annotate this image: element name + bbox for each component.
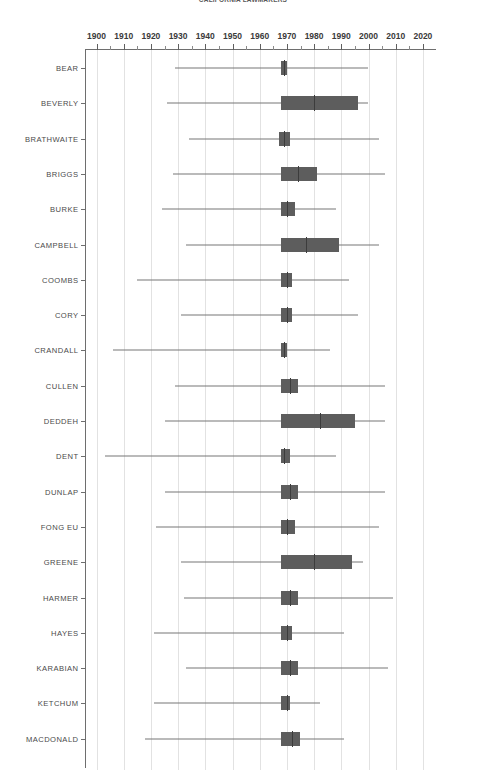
median-line: [284, 342, 285, 358]
median-line: [290, 660, 291, 676]
x-tick-1920: [151, 44, 152, 50]
y-tick-hayes: [81, 633, 85, 634]
y-tick-cullen: [81, 386, 85, 387]
category-label-burke: BURKE: [50, 205, 78, 214]
category-label-harmer: HARMER: [43, 593, 79, 602]
x-tick-1960: [260, 44, 261, 50]
x-tick-1995: [355, 46, 356, 50]
box-iqr[interactable]: [281, 520, 295, 534]
median-line: [314, 554, 315, 570]
y-tick-macdonald: [81, 739, 85, 740]
x-tick-1975: [301, 46, 302, 50]
x-tick-2020: [423, 44, 424, 50]
boxplot-row[interactable]: DUNLAP: [0, 480, 486, 504]
median-line: [284, 448, 285, 464]
category-label-brathwaite: BRATHWAITE: [25, 134, 78, 143]
boxplot-row[interactable]: CAMPBELL: [0, 233, 486, 257]
boxplot-row[interactable]: GREENE: [0, 550, 486, 574]
whisker-line: [137, 279, 349, 280]
x-tick-1910: [124, 44, 125, 50]
category-label-fong-eu: FONG EU: [41, 522, 79, 531]
whisker-line: [165, 491, 385, 492]
category-label-karabian: KARABIAN: [36, 664, 78, 673]
box-iqr[interactable]: [281, 555, 352, 569]
category-label-beverly: BEVERLY: [41, 99, 79, 108]
y-tick-deddeh: [81, 421, 85, 422]
x-tick-2010: [396, 44, 397, 50]
x-tick-1965: [273, 46, 274, 50]
x-tick-1980: [314, 44, 315, 50]
x-tick-1925: [165, 46, 166, 50]
boxplot-row[interactable]: BRATHWAITE: [0, 127, 486, 151]
boxplot-row[interactable]: DENT: [0, 444, 486, 468]
category-label-coombs: COOMBS: [42, 275, 78, 284]
boxplot-row[interactable]: CRANDALL: [0, 338, 486, 362]
boxplot-row[interactable]: HAYES: [0, 621, 486, 645]
y-tick-dent: [81, 456, 85, 457]
box-iqr[interactable]: [281, 202, 295, 216]
median-line: [287, 695, 288, 711]
boxplot-row[interactable]: DEDDEH: [0, 409, 486, 433]
category-label-greene: GREENE: [44, 558, 79, 567]
boxplot-row[interactable]: BURKE: [0, 197, 486, 221]
y-tick-beverly: [81, 103, 85, 104]
plot-area: BEARBEVERLYBRATHWAITEBRIGGSBURKECAMPBELL…: [0, 0, 486, 774]
boxplot-row[interactable]: COOMBS: [0, 268, 486, 292]
median-line: [290, 484, 291, 500]
whisker-line: [156, 526, 379, 527]
category-label-cullen: CULLEN: [46, 381, 79, 390]
whisker-line: [175, 68, 368, 69]
x-tick-1955: [246, 46, 247, 50]
whisker-line: [154, 703, 320, 704]
boxplot-row[interactable]: MACDONALD: [0, 727, 486, 751]
box-iqr[interactable]: [281, 414, 354, 428]
x-tick-1990: [341, 44, 342, 50]
x-tick-2005: [382, 46, 383, 50]
x-tick-2015: [409, 46, 410, 50]
median-line: [298, 166, 299, 182]
boxplot-row[interactable]: BRIGGS: [0, 162, 486, 186]
category-label-cory: CORY: [55, 311, 79, 320]
boxplot-row[interactable]: FONG EU: [0, 515, 486, 539]
boxplot-row[interactable]: BEAR: [0, 56, 486, 80]
y-tick-burke: [81, 209, 85, 210]
y-tick-fong-eu: [81, 527, 85, 528]
x-tick-1915: [137, 46, 138, 50]
y-tick-karabian: [81, 668, 85, 669]
category-label-campbell: CAMPBELL: [34, 240, 78, 249]
y-tick-coombs: [81, 280, 85, 281]
y-tick-ketchum: [81, 703, 85, 704]
boxplot-row[interactable]: CULLEN: [0, 374, 486, 398]
whisker-line: [175, 385, 384, 386]
category-label-crandall: CRANDALL: [34, 346, 78, 355]
x-tick-1985: [328, 46, 329, 50]
whisker-line: [113, 350, 331, 351]
y-tick-cory: [81, 315, 85, 316]
boxplot-row[interactable]: HARMER: [0, 586, 486, 610]
box-iqr[interactable]: [281, 696, 289, 710]
category-label-briggs: BRIGGS: [46, 169, 78, 178]
x-tick-1945: [219, 46, 220, 50]
boxplot-row[interactable]: BEVERLY: [0, 91, 486, 115]
whisker-line: [162, 209, 336, 210]
median-line: [287, 201, 288, 217]
box-iqr[interactable]: [281, 449, 289, 463]
box-iqr[interactable]: [281, 167, 316, 181]
median-line: [287, 272, 288, 288]
x-tick-2000: [369, 44, 370, 50]
category-label-dent: DENT: [56, 452, 78, 461]
boxplot-row[interactable]: KARABIAN: [0, 656, 486, 680]
x-tick-1900: [97, 44, 98, 50]
median-line: [290, 378, 291, 394]
category-label-macdonald: MACDONALD: [26, 734, 79, 743]
box-iqr[interactable]: [281, 732, 300, 746]
whisker-line: [105, 456, 336, 457]
category-label-deddeh: DEDDEH: [44, 417, 79, 426]
box-iqr[interactable]: [281, 238, 338, 252]
box-iqr[interactable]: [281, 96, 357, 110]
y-tick-briggs: [81, 174, 85, 175]
boxplot-row[interactable]: CORY: [0, 303, 486, 327]
boxplot-row[interactable]: KETCHUM: [0, 691, 486, 715]
x-tick-1930: [178, 44, 179, 50]
whisker-line: [145, 738, 344, 739]
